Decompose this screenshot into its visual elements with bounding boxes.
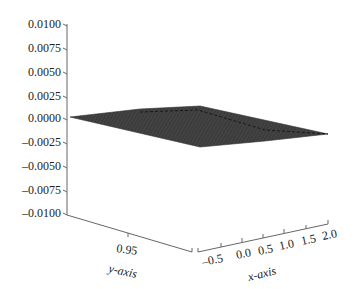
x-tick-label: 1.5 xyxy=(300,231,318,248)
z-axis-ticks xyxy=(63,24,67,215)
z-tick-label: –0.0100 xyxy=(21,206,61,220)
surface-plot-3d: 0.0100 0.0075 0.0050 0.0025 0.0000 –0.00… xyxy=(0,0,357,289)
x-tick-label: 2.0 xyxy=(321,226,339,243)
surface-mesh xyxy=(70,106,328,147)
x-tick-label: 0.5 xyxy=(257,241,275,258)
x-axis-label: x-axis xyxy=(245,263,277,284)
z-tick-label: 0.0050 xyxy=(28,65,61,79)
x-tick-label: –0.5 xyxy=(200,251,224,269)
z-tick-label: –0.0050 xyxy=(21,159,61,173)
y-tick-label: 0.95 xyxy=(116,241,139,258)
z-tick-label: 0.0075 xyxy=(28,41,61,55)
z-tick-label: 0.0100 xyxy=(28,17,61,31)
z-tick-label: –0.0025 xyxy=(21,135,61,149)
y-axis-label: y-axis xyxy=(106,261,138,281)
z-tick-label: –0.0075 xyxy=(21,183,61,197)
z-tick-label: 0.0000 xyxy=(28,111,61,125)
x-tick-label: 0.0 xyxy=(235,245,253,262)
z-tick-label: 0.0025 xyxy=(28,89,61,103)
z-axis-tick-labels: 0.0100 0.0075 0.0050 0.0025 0.0000 –0.00… xyxy=(21,17,61,220)
x-tick-label: 1.0 xyxy=(278,236,296,253)
